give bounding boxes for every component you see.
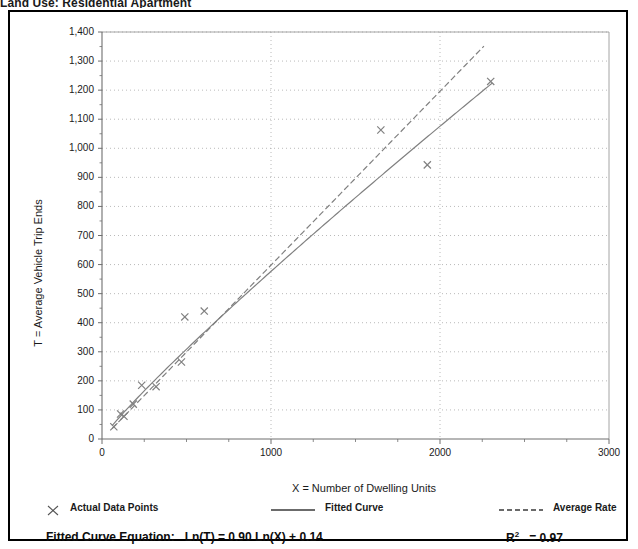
y-tick-label: 1,300 xyxy=(50,55,94,66)
y-tick-label: 500 xyxy=(50,288,94,299)
y-tick-label: 1,200 xyxy=(50,84,94,95)
r-squared-value: = 0.97 xyxy=(529,531,563,545)
chart-outer-frame: T = Average Vehicle Trip Ends X = Number… xyxy=(8,10,628,541)
y-tick-label: 1,100 xyxy=(50,113,94,124)
legend-label-average-rate: Average Rate xyxy=(553,502,617,513)
chart-legend: Actual Data Points Fitted Curve Average … xyxy=(20,501,636,521)
legend-label-actual-data-points: Actual Data Points xyxy=(70,502,158,513)
fitted-curve-line-icon xyxy=(270,504,316,516)
y-axis-title: T = Average Vehicle Trip Ends xyxy=(32,158,44,388)
equation-row: Fitted Curve Equation: Ln(T) = 0.90 Ln(X… xyxy=(20,530,636,549)
data-point-marker xyxy=(424,161,431,168)
fitted-curve-equation: Fitted Curve Equation: Ln(T) = 0.90 Ln(X… xyxy=(46,530,323,544)
x-tick-label: 0 xyxy=(72,447,132,458)
y-tick-label: 1,400 xyxy=(50,26,94,37)
x-tick-label: 1000 xyxy=(241,447,301,458)
y-tick-label: 100 xyxy=(50,404,94,415)
data-point-marker xyxy=(201,307,208,314)
y-tick-label: 400 xyxy=(50,317,94,328)
y-tick-label: 900 xyxy=(50,171,94,182)
y-tick-label: 200 xyxy=(50,375,94,386)
equation-value: Ln(T) = 0.90 Ln(X) + 0.14 xyxy=(185,530,323,544)
y-axis-title-wrap: T = Average Vehicle Trip Ends xyxy=(28,162,48,392)
actual-data-points-marker-icon xyxy=(45,504,61,516)
y-tick-label: 0 xyxy=(50,433,94,444)
legend-label-fitted-curve: Fitted Curve xyxy=(325,502,383,513)
y-tick-label: 700 xyxy=(50,230,94,241)
x-tick-label: 3000 xyxy=(579,447,638,458)
chart-page: Land Use: Residential Apartment T = Aver… xyxy=(0,0,638,549)
data-point-group xyxy=(110,78,494,431)
data-point-marker xyxy=(377,126,384,133)
r-squared-label: R xyxy=(506,531,515,545)
fitted-curve-line xyxy=(112,83,492,426)
r-squared: R2 = 0.97 xyxy=(506,530,563,545)
equation-label: Fitted Curve Equation: xyxy=(46,530,175,544)
r-squared-exponent: 2 xyxy=(515,530,519,539)
average-rate-line-icon xyxy=(498,504,544,516)
clipped-page-title: Land Use: Residential Apartment xyxy=(0,0,638,8)
y-tick-label: 300 xyxy=(50,346,94,357)
plot-area xyxy=(10,12,626,539)
y-tick-label: 600 xyxy=(50,259,94,270)
y-tick-label: 800 xyxy=(50,200,94,211)
data-point-marker xyxy=(178,358,185,365)
average-rate-line xyxy=(112,46,484,428)
x-tick-label: 2000 xyxy=(410,447,470,458)
x-axis-title: X = Number of Dwelling Units xyxy=(110,482,618,494)
data-point-marker xyxy=(181,313,188,320)
y-tick-label: 1,000 xyxy=(50,142,94,153)
data-point-marker xyxy=(138,382,145,389)
